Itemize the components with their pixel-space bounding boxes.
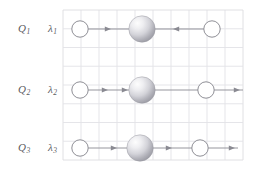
arrowhead-left — [173, 26, 179, 31]
sphere-node — [127, 135, 153, 161]
arrowhead-right — [102, 87, 108, 92]
flux-diagram-figure: Q1 λ1 Q2 λ2 Q3 λ3 — [0, 0, 262, 171]
diagram-canvas — [0, 0, 262, 171]
sphere-node — [129, 16, 155, 42]
circle-node — [192, 140, 208, 156]
arrowhead-right — [105, 26, 111, 31]
circle-node — [72, 82, 88, 98]
arrowhead-right — [234, 87, 240, 92]
node-layer — [72, 16, 220, 161]
sphere-node — [129, 77, 155, 103]
circle-node — [204, 21, 220, 37]
arrowhead-right — [111, 145, 117, 150]
edge-layer — [88, 26, 243, 150]
arrowhead-right — [122, 87, 128, 92]
circle-node — [72, 21, 88, 37]
arrowhead-right — [229, 145, 235, 150]
circle-node — [72, 140, 88, 156]
circle-node — [198, 82, 214, 98]
